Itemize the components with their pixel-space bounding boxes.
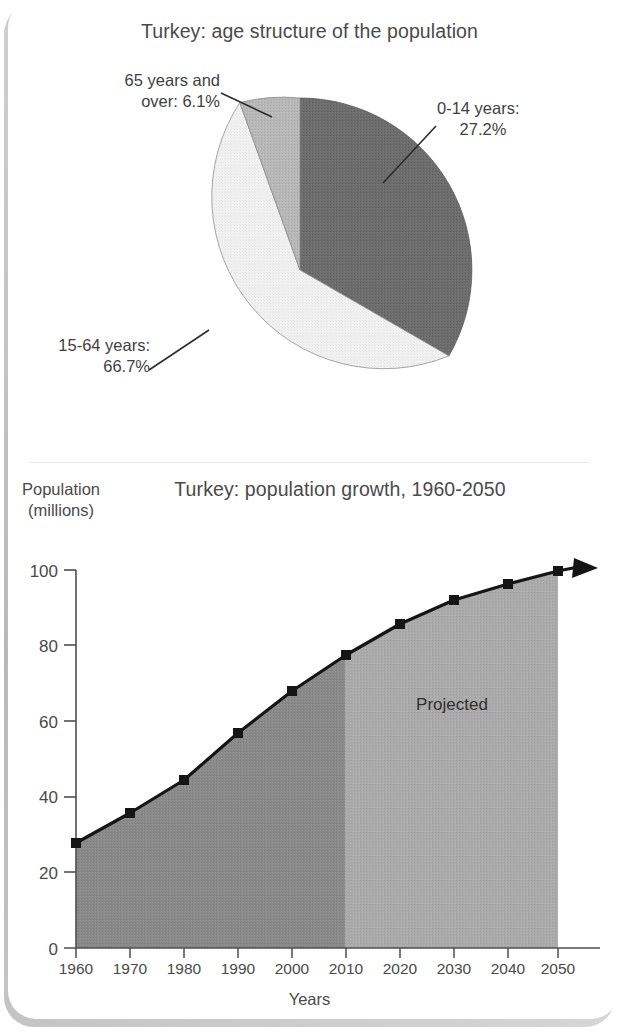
data-point-1970 [125, 808, 135, 818]
x-tick-label-2040: 2040 [491, 960, 526, 977]
pie-label-65-plus-line1: 65 years and [98, 70, 220, 91]
data-point-1960 [71, 838, 81, 848]
pie-label-0-14: 0-14 years: 27.2% [437, 98, 587, 141]
x-tick-label-2010: 2010 [329, 960, 364, 977]
x-tick-label-1970: 1970 [113, 960, 148, 977]
pie-label-15-64-line2: 66.7% [18, 356, 150, 377]
y-tick-label-40: 40 [39, 788, 58, 807]
y-tick-label-100: 100 [30, 562, 58, 581]
data-point-2050 [553, 566, 563, 576]
x-tick-label-1980: 1980 [167, 960, 202, 977]
figure-content: Turkey: age structure of the population [0, 0, 619, 1031]
projected-annotation: Projected [416, 695, 488, 714]
data-point-2040 [503, 579, 513, 589]
x-tick-label-1990: 1990 [221, 960, 256, 977]
pie-label-0-14-line1: 0-14 years: [437, 98, 587, 119]
pie-label-15-64: 15-64 years: 66.7% [18, 335, 150, 378]
data-point-2010 [341, 650, 351, 660]
y-axis-ticks [64, 570, 76, 872]
pie-label-15-64-line1: 15-64 years: [18, 335, 150, 356]
x-axis-tick-labels: 1960 1970 1980 1990 2000 2010 2020 2030 … [59, 960, 576, 977]
pie-label-0-14-line2: 27.2% [437, 119, 529, 140]
pie-label-65-plus: 65 years and over: 6.1% [98, 70, 220, 113]
y-axis-tick-labels: 100 80 60 40 20 0 [30, 562, 58, 959]
x-tick-label-2020: 2020 [383, 960, 418, 977]
pie-label-65-plus-line2: over: 6.1% [98, 91, 220, 112]
population-growth-chart: 100 80 60 40 20 0 1960 1970 1980 1990 20… [0, 460, 619, 980]
y-tick-label-0: 0 [49, 940, 58, 959]
data-point-2000 [287, 686, 297, 696]
pie-chart-title: Turkey: age structure of the population [0, 20, 619, 43]
data-point-1980 [179, 775, 189, 785]
data-point-2020 [395, 619, 405, 629]
y-tick-label-20: 20 [39, 864, 58, 883]
x-tick-label-2000: 2000 [275, 960, 310, 977]
x-tick-label-2050: 2050 [541, 960, 576, 977]
y-tick-label-60: 60 [39, 713, 58, 732]
y-tick-label-80: 80 [39, 637, 58, 656]
x-tick-label-2030: 2030 [437, 960, 472, 977]
data-point-1990 [233, 728, 243, 738]
x-axis-ticks [76, 948, 558, 958]
x-axis-caption: Years [0, 989, 619, 1010]
callout-line-15-64 [149, 330, 209, 370]
data-point-2030 [449, 595, 459, 605]
trend-arrow-icon [558, 558, 598, 578]
x-tick-label-1960: 1960 [59, 960, 94, 977]
